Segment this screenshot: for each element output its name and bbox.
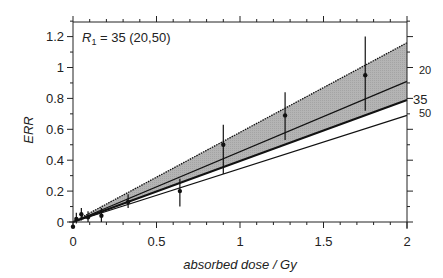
r-symbol: R xyxy=(82,30,91,45)
y-axis-title: ERR xyxy=(21,116,36,143)
data-point xyxy=(71,224,75,228)
x-tick-label: 1.5 xyxy=(314,234,332,249)
r1-annotation: R1 = 35 (20,50) xyxy=(82,30,170,47)
data-point xyxy=(283,113,287,117)
data-point xyxy=(221,143,225,147)
y-tick-label: 0.8 xyxy=(46,91,64,106)
data-point xyxy=(363,73,367,77)
y-tick-label: 0.6 xyxy=(46,122,64,137)
x-tick-label: 0 xyxy=(69,234,76,249)
data-point xyxy=(178,189,182,193)
curve-50 xyxy=(73,115,407,222)
line-label-35: 35 xyxy=(413,92,427,107)
data-point xyxy=(79,212,83,216)
y-tick-label: 1.2 xyxy=(46,29,64,44)
err-dose-chart: 00.511.5200.20.40.60.811.2203550 R1 = 35… xyxy=(0,0,443,278)
data-point xyxy=(126,200,130,204)
x-axis-title: absorbed dose / Gy xyxy=(183,257,298,272)
y-tick-label: 1 xyxy=(57,60,64,75)
line-label-20: 20 xyxy=(419,64,431,76)
y-tick-label: 0 xyxy=(57,215,64,230)
y-tick-label: 0.2 xyxy=(46,184,64,199)
y-tick-label: 0.4 xyxy=(46,153,64,168)
plot-frame xyxy=(67,16,413,229)
x-tick-label: 2 xyxy=(403,234,410,249)
line-label-50: 50 xyxy=(419,107,431,119)
x-tick-label: 1 xyxy=(236,234,243,249)
curve-35 xyxy=(73,100,407,222)
curve-20 xyxy=(73,81,407,222)
data-point xyxy=(86,215,90,219)
data-point xyxy=(74,217,78,221)
r-value: = 35 (20,50) xyxy=(96,30,170,45)
x-tick-label: 0.5 xyxy=(147,234,165,249)
data-point xyxy=(99,214,103,218)
